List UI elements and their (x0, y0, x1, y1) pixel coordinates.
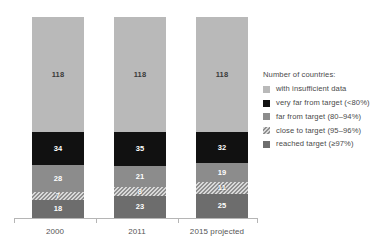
bar-segment-close-to-target[interactable]: 7 (32, 192, 84, 200)
bar-segment-very-far-from-target[interactable]: 35 (114, 132, 166, 166)
plot-area: 118 34 28 7 18 118 35 21 (0, 0, 262, 243)
bar-segment-reached-target[interactable]: 23 (114, 196, 166, 218)
legend-item-label: very far from target (<80%) (276, 99, 370, 107)
bar-segment-close-to-target[interactable]: 11 (196, 182, 248, 194)
bar-segment-insufficient-data[interactable]: 118 (196, 17, 248, 132)
legend-swatch-icon (263, 127, 270, 134)
legend-item-far-from-target[interactable]: far from target (80–94%) (263, 113, 378, 121)
x-axis-line (14, 218, 258, 219)
stacked-bar-chart: 118 34 28 7 18 118 35 21 (0, 0, 378, 243)
segment-value-label: 19 (218, 169, 227, 177)
segment-value-label: 118 (52, 71, 65, 79)
bar-segment-far-from-target[interactable]: 28 (32, 165, 84, 192)
bar-segment-very-far-from-target[interactable]: 32 (196, 132, 248, 163)
bar-segment-insufficient-data[interactable]: 118 (114, 17, 166, 132)
legend-item-close-to-target[interactable]: close to target (95–96%) (263, 127, 378, 135)
segment-value-label: 18 (54, 205, 63, 213)
bar-column-2000[interactable]: 118 34 28 7 18 (32, 17, 84, 218)
bar-column-2015-projected[interactable]: 118 32 19 11 25 (196, 17, 248, 218)
bar-segment-reached-target[interactable]: 25 (196, 194, 248, 218)
x-axis-tick (96, 218, 97, 223)
segment-value-label: 8 (138, 188, 142, 196)
segment-value-label: 25 (218, 202, 227, 210)
bar-segment-close-to-target[interactable]: 8 (114, 187, 166, 196)
x-axis-label-2000: 2000 (14, 227, 96, 236)
legend-item-label: far from target (80–94%) (276, 113, 361, 121)
bar-segment-insufficient-data[interactable]: 118 (32, 17, 84, 132)
legend-item-very-far-from-target[interactable]: very far from target (<80%) (263, 99, 378, 107)
legend-swatch-icon (263, 141, 270, 148)
legend-item-label: with insufficient data (276, 85, 346, 93)
bar-segment-reached-target[interactable]: 18 (32, 200, 84, 218)
legend-swatch-icon (263, 86, 270, 93)
segment-value-label: 21 (136, 173, 145, 181)
legend-item-label: reached target (≥97%) (276, 140, 354, 148)
segment-value-label: 23 (136, 203, 145, 211)
legend-item-reached-target[interactable]: reached target (≥97%) (263, 140, 378, 148)
legend-swatch-icon (263, 113, 270, 120)
x-axis-tick (14, 218, 15, 223)
segment-value-label: 28 (54, 175, 63, 183)
legend: Number of countries: with insufficient d… (263, 70, 378, 154)
segment-value-label: 118 (134, 71, 147, 79)
legend-item-insufficient-data[interactable]: with insufficient data (263, 85, 378, 93)
x-axis-label-2011: 2011 (96, 227, 178, 236)
legend-swatch-icon (263, 100, 270, 107)
segment-value-label: 35 (136, 145, 145, 153)
x-axis-label-2015-projected: 2015 projected (176, 227, 258, 236)
legend-item-label: close to target (95–96%) (276, 127, 361, 135)
bar-column-2011[interactable]: 118 35 21 8 23 (114, 17, 166, 218)
bar-segment-very-far-from-target[interactable]: 34 (32, 132, 84, 165)
x-axis-tick (178, 218, 179, 223)
segment-value-label: 11 (218, 184, 226, 192)
legend-title: Number of countries: (263, 70, 378, 79)
x-axis-tick (257, 218, 258, 223)
segment-value-label: 32 (218, 144, 227, 152)
segment-value-label: 118 (216, 71, 229, 79)
segment-value-label: 34 (54, 145, 63, 153)
bar-segment-far-from-target[interactable]: 21 (114, 166, 166, 187)
bar-segment-far-from-target[interactable]: 19 (196, 163, 248, 182)
segment-value-label: 7 (56, 192, 60, 200)
